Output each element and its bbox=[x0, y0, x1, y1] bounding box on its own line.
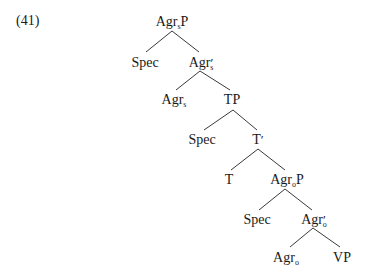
node-subscript: s bbox=[183, 100, 186, 109]
node-vp: VP bbox=[333, 250, 351, 266]
node-label: Spec bbox=[243, 212, 270, 227]
node-label: Agr bbox=[301, 212, 323, 227]
node-label: Agr bbox=[162, 92, 184, 107]
node-suffix: P bbox=[296, 172, 304, 187]
node-subscript: o bbox=[323, 220, 327, 229]
bar-level-mark: ′ bbox=[261, 132, 264, 147]
node-spec1: Spec bbox=[131, 55, 158, 71]
branch-agrsp-agrsbar bbox=[172, 31, 199, 52]
node-label: T bbox=[225, 172, 234, 187]
node-subscript: o bbox=[295, 258, 299, 267]
node-label: Spec bbox=[131, 55, 158, 70]
branch-agrsbar-tp bbox=[200, 71, 230, 90]
branch-agrobar-vp bbox=[313, 228, 340, 247]
node-agro: Agro bbox=[273, 250, 299, 266]
branch-agrsp-spec1 bbox=[146, 31, 172, 52]
branch-agrop-agrobar bbox=[285, 189, 312, 210]
branch-tp-spec2 bbox=[204, 110, 233, 130]
node-tbar: T′ bbox=[252, 132, 263, 148]
node-label: TP bbox=[224, 92, 240, 107]
node-label: Agr bbox=[270, 172, 292, 187]
branch-agrsbar-agrs bbox=[176, 71, 200, 90]
tree-branches bbox=[0, 0, 368, 280]
node-spec2: Spec bbox=[188, 132, 215, 148]
branch-tbar-agrop bbox=[258, 149, 285, 170]
node-subscript: s bbox=[210, 63, 213, 72]
node-label: T bbox=[252, 132, 261, 147]
node-agrs: Agrs bbox=[162, 92, 187, 108]
node-label: Agr bbox=[189, 55, 211, 70]
node-agrsp: AgrsP bbox=[156, 14, 189, 30]
node-agrsbar: Agr′s bbox=[189, 55, 214, 71]
node-label: Agr bbox=[273, 250, 295, 265]
node-spec3: Spec bbox=[243, 212, 270, 228]
branch-agrop-spec3 bbox=[259, 189, 285, 210]
node-suffix: P bbox=[181, 14, 189, 29]
node-t: T bbox=[225, 172, 234, 188]
branch-tp-tbar bbox=[233, 110, 257, 130]
node-agrobar: Agr′o bbox=[301, 212, 327, 228]
node-label: Spec bbox=[188, 132, 215, 147]
node-label: VP bbox=[333, 250, 351, 265]
branch-agrobar-agro bbox=[290, 228, 313, 247]
node-agrop: AgroP bbox=[270, 172, 304, 188]
node-label: Agr bbox=[156, 14, 178, 29]
branch-tbar-t bbox=[231, 149, 258, 170]
node-tp: TP bbox=[224, 92, 240, 108]
